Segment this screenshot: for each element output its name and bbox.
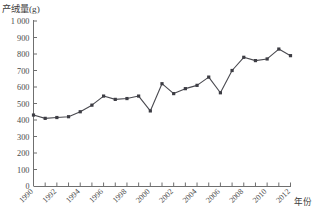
line-chart: 产绒量(g) 01002003004005006007008009001 000… [0,0,317,223]
series-markers [32,47,292,120]
y-tick-label: 300 [17,133,29,142]
data-point-marker [207,76,210,79]
x-tick-label: 2010 [251,187,269,205]
x-tick-label: 2008 [228,187,246,205]
y-axis-tick-labels: 01002003004005006007008009001 000 [11,17,30,191]
y-tick-label: 900 [17,34,29,43]
data-point-marker [184,87,187,90]
data-point-marker [44,117,47,120]
data-point-marker [254,59,257,62]
y-tick-label: 100 [17,166,29,175]
data-point-marker [277,47,280,50]
x-axis-ticks [45,183,290,187]
data-point-marker [90,104,93,107]
y-tick-label: 1 000 [11,17,30,26]
y-tick-label: 500 [17,100,29,109]
y-tick-label: 400 [17,116,29,125]
y-axis-title: 产绒量(g) [2,3,40,14]
y-tick-label: 600 [17,83,29,92]
x-tick-label: 1996 [87,187,105,205]
y-axis-title-group: 产绒量(g) [2,3,40,14]
data-point-marker [114,98,117,101]
x-tick-label: 2000 [134,187,152,205]
data-point-marker [195,84,198,87]
data-point-marker [242,56,245,59]
data-point-marker [219,91,222,94]
data-point-marker [32,113,35,116]
data-point-marker [289,54,292,57]
data-point-marker [266,57,269,60]
chart-container: 产绒量(g) 01002003004005006007008009001 000… [0,0,317,223]
data-point-marker [172,92,175,95]
data-point-marker [125,97,128,100]
x-tick-label: 2002 [157,187,175,205]
x-axis-title: 年份 [294,196,312,207]
x-tick-label: 2006 [204,187,222,205]
data-point-marker [67,115,70,118]
x-tick-label: 1990 [17,187,35,205]
data-point-marker [55,116,58,119]
data-point-marker [160,82,163,85]
y-axis-ticks [34,21,38,170]
y-tick-label: 800 [17,50,29,59]
data-point-marker [149,109,152,112]
data-point-marker [79,110,82,113]
x-tick-label: 2004 [181,187,199,205]
x-tick-label: 1994 [64,187,82,205]
y-tick-label: 200 [17,149,29,158]
x-tick-label: 1992 [41,187,59,205]
data-point-marker [230,69,233,72]
data-point-marker [102,94,105,97]
x-tick-label: 2012 [274,187,292,205]
data-point-marker [137,94,140,97]
x-tick-label: 1998 [111,187,129,205]
y-tick-label: 700 [17,67,29,76]
x-axis-tick-labels: 1990199219941996199820002002200420062008… [17,187,292,205]
